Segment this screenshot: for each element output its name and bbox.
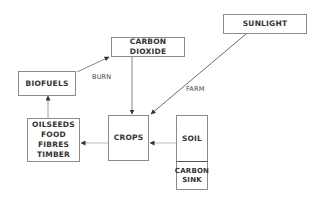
node-crops-label: CROPS <box>114 133 144 143</box>
node-carbon-dioxide: CARBON DIOXIDE <box>111 37 185 57</box>
node-soil: SOIL <box>176 115 208 162</box>
node-carbon-sink: CARBON SINK <box>176 162 208 190</box>
carbon-sink-line-1: CARBON <box>175 167 209 176</box>
node-carbon-dioxide-label: CARBON DIOXIDE <box>112 37 184 57</box>
edge-label-burn: BURN <box>92 73 111 81</box>
product-food: FOOD <box>41 130 66 140</box>
node-products: OILSEEDS FOOD FIBRES TIMBER <box>27 118 80 162</box>
node-biofuels-label: BIOFUELS <box>25 79 68 89</box>
carbon-sink-line-2: SINK <box>182 176 202 185</box>
node-soil-label: SOIL <box>182 134 202 144</box>
node-crops: CROPS <box>108 115 149 161</box>
product-fibres: FIBRES <box>38 140 69 150</box>
product-timber: TIMBER <box>37 150 70 160</box>
node-biofuels: BIOFUELS <box>18 71 76 96</box>
product-oilseeds: OILSEEDS <box>32 120 75 130</box>
arrow-biofuels-to-carbon-dioxide <box>77 57 109 72</box>
node-sunlight: SUNLIGHT <box>223 14 307 34</box>
node-sunlight-label: SUNLIGHT <box>243 19 288 29</box>
edge-label-farm: FARM <box>186 85 205 93</box>
